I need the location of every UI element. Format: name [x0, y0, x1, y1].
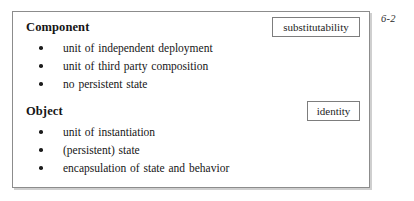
section-heading-object: Object: [26, 104, 63, 118]
list-item-label: no persistent state: [63, 75, 147, 93]
bullet-icon: [39, 82, 43, 86]
bullet-icon: [39, 166, 43, 170]
list-item: (persistent) state: [13, 141, 369, 159]
list-item-label: unit of third party composition: [63, 57, 208, 75]
bullet-list-object: unit of instantiation (persistent) state…: [13, 123, 369, 177]
slide-frame: Component unit of independent deployment…: [12, 11, 370, 188]
list-item-label: unit of instantiation: [63, 123, 155, 141]
bullet-list-component: unit of independent deployment unit of t…: [13, 39, 369, 93]
bullet-icon: [39, 64, 43, 68]
list-item: unit of instantiation: [13, 123, 369, 141]
list-item-label: (persistent) state: [63, 141, 140, 159]
list-item-label: encapsulation of state and behavior: [63, 159, 229, 177]
tag-box-identity: identity: [307, 101, 360, 121]
list-item: unit of third party composition: [13, 57, 369, 75]
bullet-icon: [39, 130, 43, 134]
list-item-label: unit of independent deployment: [63, 39, 213, 57]
bullet-icon: [39, 46, 43, 50]
list-item: encapsulation of state and behavior: [13, 159, 369, 177]
bullet-icon: [39, 148, 43, 152]
list-item: unit of independent deployment: [13, 39, 369, 57]
list-item: no persistent state: [13, 75, 369, 93]
section-heading-component: Component: [26, 20, 89, 34]
tag-box-substitutability: substitutability: [272, 17, 360, 37]
page-marker: 6-2: [381, 12, 396, 25]
